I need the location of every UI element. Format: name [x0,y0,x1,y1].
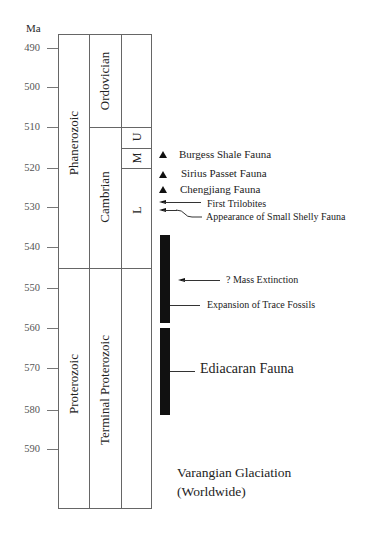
period-ordovician: Ordovician [97,52,113,110]
tick-label: 590 [4,443,40,455]
event-chengjiang: Chengjiang Fauna [180,183,260,195]
tick-label: 520 [4,162,40,174]
tick-label: 550 [4,282,40,294]
table-border-right [151,34,152,508]
event-trace-fossils: Expansion of Trace Fossils [207,299,315,311]
period-terminal-proterozoic: Terminal Proterozoic [97,335,113,445]
pointer-curve [176,209,202,219]
glaciation-label-line2: (Worldwide) [177,482,246,501]
tick-label: 540 [4,241,40,253]
table-border-top [58,34,152,35]
axis-unit-label: Ma [26,22,41,34]
tick-mark [47,48,58,49]
tick-label: 570 [4,362,40,374]
triangle-marker-icon [159,151,167,158]
event-first-trilobites: First Trilobites [207,198,266,210]
tick-label: 490 [4,42,40,54]
glaciation-label-line1: Varangian Glaciation [177,463,291,482]
tick-label: 580 [4,404,40,416]
column-divider [89,34,90,508]
epoch-middle: M [130,153,145,164]
tick-label: 500 [4,81,40,93]
ordovician-cambrian-boundary [89,127,152,128]
triangle-marker-icon [159,186,167,193]
epoch-upper: U [130,133,145,142]
epoch-lower: L [130,206,145,213]
tick-label: 560 [4,322,40,334]
tick-mark [47,247,58,248]
tick-mark [47,368,58,369]
middle-lower-boundary [121,168,152,169]
tick-mark [47,87,58,88]
upper-middle-boundary [121,148,152,149]
event-small-shelly-fauna: Appearance of Small Shelly Fauna [206,211,345,223]
pointer-line [182,280,220,281]
tick-mark [47,328,58,329]
tick-mark [47,449,58,450]
event-ediacaran-fauna: Ediacaran Fauna [200,363,294,375]
fauna-range-bar [160,235,170,323]
tick-mark [47,127,58,128]
table-border-left [58,34,59,508]
phanerozoic-proterozoic-boundary [58,268,152,269]
tick-mark [47,288,58,289]
tick-label: 530 [4,201,40,213]
triangle-marker-icon [159,171,167,178]
event-burgess-shale: Burgess Shale Fauna [179,148,271,160]
period-cambrian: Cambrian [97,171,113,222]
tick-mark [47,168,58,169]
pointer-line [170,371,195,372]
eon-phanerozoic: Phanerozoic [66,111,82,175]
tick-mark [47,410,58,411]
event-mass-extinction: ? Mass Extinction [226,274,298,286]
fauna-range-bar [160,328,170,415]
tick-label: 510 [4,121,40,133]
pointer-line [163,202,201,203]
tick-mark [47,207,58,208]
pointer-line [163,210,177,211]
pointer-line [170,305,200,306]
column-divider [121,34,122,508]
eon-proterozoic: Proterozoic [66,354,82,414]
table-border-bottom [58,508,152,509]
event-sirius-passet: Sirius Passet Fauna [181,167,267,179]
